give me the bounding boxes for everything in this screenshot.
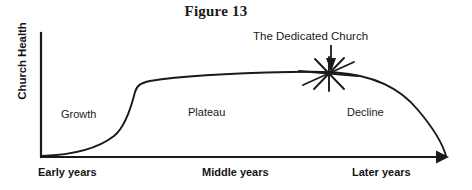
dedicated-church-annotation-label: The Dedicated Church (253, 30, 368, 42)
church-health-lifecycle-chart (0, 0, 472, 190)
x-axis-arrowhead-icon (436, 151, 449, 164)
x-tick-label-early-years: Early years (38, 166, 97, 178)
x-tick-label-middle-years: Middle years (202, 166, 269, 178)
phase-label-decline: Decline (347, 106, 384, 118)
phase-label-growth: Growth (61, 108, 96, 120)
y-axis-title: Church Health (16, 6, 28, 116)
figure-13-diagram: Figure 13 Church Health The Dedicated Ch… (0, 0, 472, 190)
x-tick-label-later-years: Later years (352, 166, 411, 178)
phase-label-plateau: Plateau (188, 106, 225, 118)
lifecycle-curve (42, 72, 446, 156)
